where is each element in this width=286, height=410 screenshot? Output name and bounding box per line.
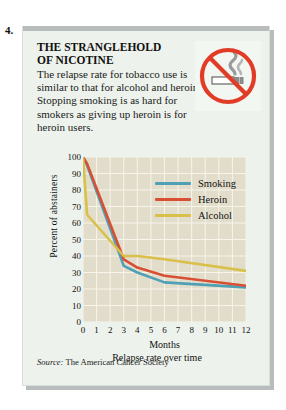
x-tick-6: 6	[162, 325, 167, 335]
card-body-text: The relapse rate for tobacco use is simi…	[37, 68, 205, 134]
x-tick-0: 0	[81, 325, 86, 335]
chart-legend: Smoking Heroin Alcohol	[155, 175, 275, 223]
y-tick-70: 70	[55, 202, 81, 212]
legend-swatch-alcohol	[155, 214, 191, 217]
legend-swatch-heroin	[155, 198, 191, 201]
legend-label-alcohol: Alcohol	[198, 210, 232, 221]
y-axis-ticks: 0102030405060708090100	[51, 157, 81, 322]
x-tick-2: 2	[108, 325, 113, 335]
legend-swatch-smoking	[155, 182, 191, 185]
y-tick-50: 50	[55, 235, 81, 245]
y-tick-80: 80	[55, 185, 81, 195]
y-tick-100: 100	[55, 152, 81, 162]
headline-line-2: OF NICOTINE	[37, 54, 197, 67]
headline-line-1: THE STRANGLEHOLD	[37, 41, 197, 54]
x-tick-11: 11	[228, 325, 237, 335]
x-tick-9: 9	[203, 325, 208, 335]
plot-area: Smoking Heroin Alcohol	[83, 157, 246, 322]
x-tick-12: 12	[242, 325, 251, 335]
legend-item-alcohol: Alcohol	[155, 207, 275, 223]
y-tick-20: 20	[55, 284, 81, 294]
x-tick-5: 5	[149, 325, 154, 335]
legend-item-heroin: Heroin	[155, 191, 275, 207]
x-tick-1: 1	[94, 325, 99, 335]
card-headline: THE STRANGLEHOLD OF NICOTINE	[37, 41, 197, 67]
y-tick-90: 90	[55, 169, 81, 179]
legend-item-smoking: Smoking	[155, 175, 275, 191]
legend-label-smoking: Smoking	[198, 178, 236, 189]
x-tick-10: 10	[214, 325, 223, 335]
x-axis-label: Months	[83, 339, 246, 350]
x-tick-4: 4	[135, 325, 140, 335]
x-tick-7: 7	[176, 325, 181, 335]
y-tick-60: 60	[55, 218, 81, 228]
x-tick-3: 3	[122, 325, 127, 335]
x-tick-8: 8	[189, 325, 194, 335]
y-tick-10: 10	[55, 301, 81, 311]
y-tick-0: 0	[55, 317, 81, 327]
legend-label-heroin: Heroin	[198, 194, 227, 205]
page-root: 4. THE STRANGLEHOLD OF NICOTINE The rela…	[0, 0, 286, 410]
x-axis-ticks: 0123456789101112	[83, 325, 246, 339]
y-tick-30: 30	[55, 268, 81, 278]
source-line: Source: The American Cancer Society	[37, 357, 169, 367]
y-tick-40: 40	[55, 251, 81, 261]
source-text: The American Cancer Society	[65, 357, 168, 367]
info-card: THE STRANGLEHOLD OF NICOTINE The relapse…	[22, 26, 270, 386]
no-smoking-icon	[195, 41, 261, 111]
question-number: 4.	[5, 24, 13, 36]
card-top-bar	[23, 26, 269, 31]
no-smoking-icon-svg	[195, 41, 261, 111]
source-prefix: Source:	[37, 357, 63, 367]
chart: Percent of abstainers 010203040506070809…	[31, 155, 263, 377]
